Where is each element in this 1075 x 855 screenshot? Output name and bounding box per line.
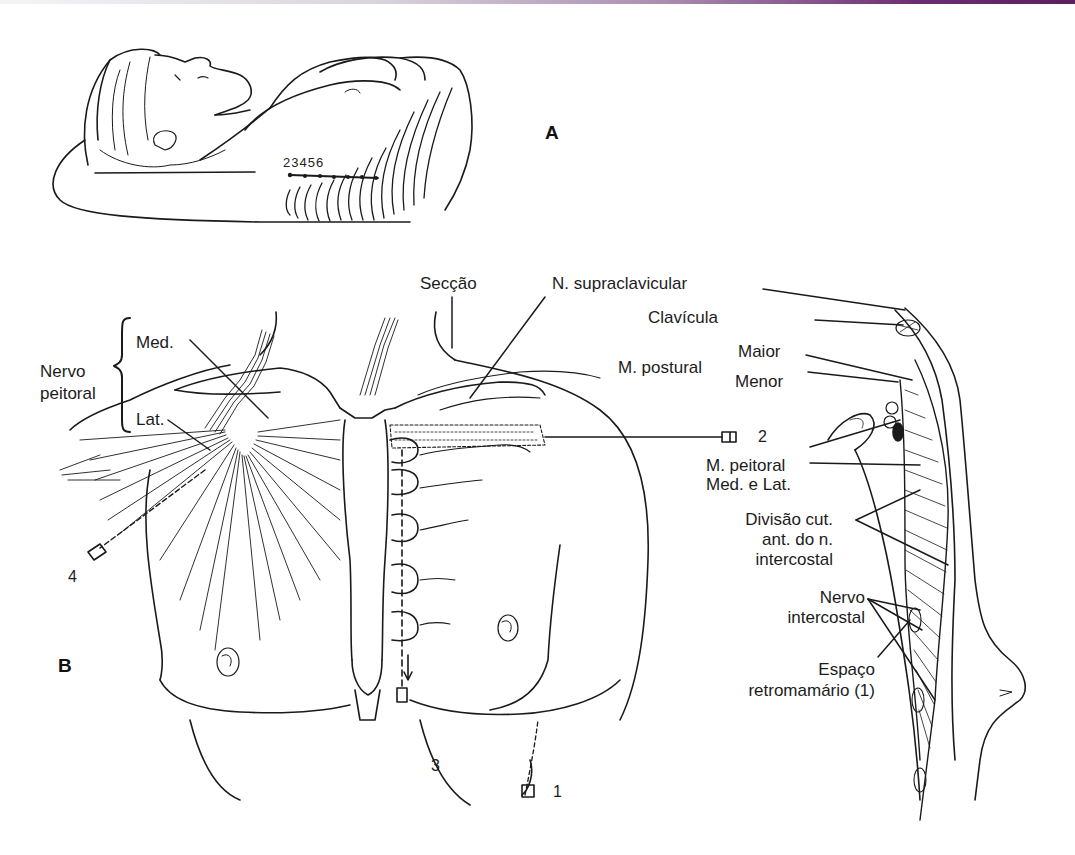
label-espaco-2: retromamário (1) <box>700 681 875 701</box>
panel-a-drawing <box>53 49 472 222</box>
needle-number-4: 4 <box>68 568 77 586</box>
label-maior: Maior <box>738 342 781 362</box>
label-nervo-peitoral-1: Nervo <box>40 362 85 382</box>
rib-numbers: 23456 <box>283 155 324 170</box>
leader-lines <box>114 289 948 700</box>
label-divisao-3: intercostal <box>700 550 833 570</box>
needle-number-1: 1 <box>553 783 562 801</box>
label-divisao-1: Divisão cut. <box>700 510 833 530</box>
label-menor: Menor <box>735 372 783 392</box>
needle-number-3: 3 <box>431 757 440 775</box>
label-nervo-intercostal-2: intercostal <box>740 608 865 628</box>
panel-label-b: B <box>58 655 72 677</box>
label-n-supraclavicular: N. supraclavicular <box>552 274 687 294</box>
label-seccao: Secção <box>420 274 477 294</box>
panel-b-drawing <box>60 312 736 805</box>
label-m-postural: M. postural <box>618 358 702 378</box>
sagittal-section-drawing <box>828 308 1025 820</box>
label-lat: Lat. <box>136 410 164 430</box>
label-med: Med. <box>136 333 174 353</box>
panel-label-a: A <box>545 122 559 144</box>
label-m-peitoral-1: M. peitoral <box>706 456 785 476</box>
label-divisao-2: ant. do n. <box>700 530 833 550</box>
label-nervo-peitoral-2: peitoral <box>40 384 96 404</box>
label-clavicula: Clavícula <box>648 308 718 328</box>
label-espaco-1: Espaço <box>700 660 875 680</box>
needle-number-2: 2 <box>758 428 767 446</box>
label-nervo-intercostal-1: Nervo <box>740 588 865 608</box>
label-m-peitoral-2: Med. e Lat. <box>706 475 791 495</box>
